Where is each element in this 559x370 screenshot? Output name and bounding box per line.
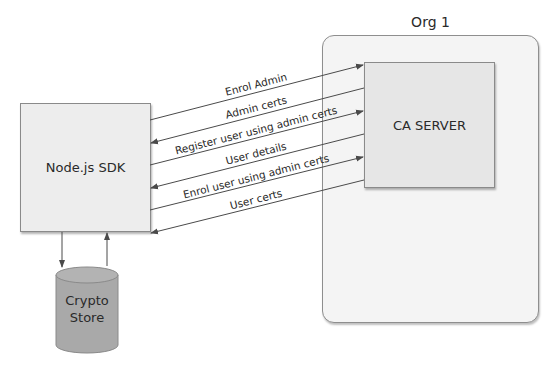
crypto-store-label: Crypto Store — [56, 292, 118, 326]
message-label-admin-certs: Admin certs — [224, 94, 288, 121]
message-label-enrol-admin: Enrol Admin — [224, 70, 289, 97]
message-label-user-certs: User certs — [229, 187, 284, 212]
crypto-store-label-line2: Store — [56, 309, 118, 326]
crypto-store-label-line1: Crypto — [56, 292, 118, 309]
